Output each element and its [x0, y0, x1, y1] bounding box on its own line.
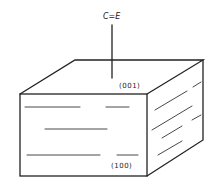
side-striation — [192, 115, 201, 120]
side-striation — [193, 82, 201, 87]
front-face-label: (100) — [111, 162, 132, 170]
c-axis-label: C=E — [103, 12, 120, 21]
side-striation — [162, 126, 182, 138]
crystal-block-diagram — [0, 0, 213, 190]
side-striation — [155, 91, 187, 110]
side-striation — [158, 141, 182, 155]
side-striation — [152, 106, 192, 130]
top-face-label: (001) — [119, 82, 140, 90]
